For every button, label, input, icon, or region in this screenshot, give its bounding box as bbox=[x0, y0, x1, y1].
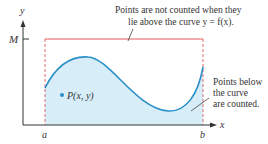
x-axis-label: x bbox=[219, 119, 225, 130]
x-tick-label-b: b bbox=[200, 129, 205, 140]
x-tick-label-a: a bbox=[42, 129, 47, 140]
top-annotation-line2: lie above the curve y = f(x). bbox=[128, 17, 234, 28]
y-axis-label: y bbox=[19, 5, 25, 16]
x-axis-arrow-icon bbox=[210, 123, 217, 128]
top-annotation-line1: Points are not counted when they bbox=[115, 5, 242, 15]
y-tick-label-m: M bbox=[8, 33, 19, 45]
y-axis-arrow-icon bbox=[21, 20, 26, 27]
point-p bbox=[60, 93, 64, 97]
point-p-label: P(x, y) bbox=[66, 90, 94, 102]
right-annotation-line3: are counted. bbox=[213, 99, 259, 109]
monte-carlo-diagram: y x M a b P(x, y) Points are not counted… bbox=[0, 0, 268, 144]
right-annotation-line1: Points below bbox=[213, 77, 262, 87]
right-annotation-line2: the curve bbox=[213, 88, 248, 98]
